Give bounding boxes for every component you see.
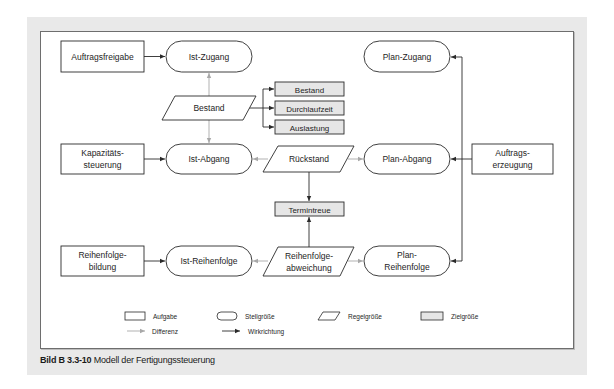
node-auftragserzeugung: Auftrags- erzeugung: [472, 144, 553, 174]
node-rueckstand: Rückstand: [263, 146, 354, 172]
legend-label: Aufgabe: [153, 313, 178, 321]
legend-label: Stellgröße: [245, 313, 275, 321]
figure-caption: Bild B 3.3-10 Modell der Fertigungssteue…: [40, 355, 215, 365]
legend-label: Wirkrichtung: [248, 328, 285, 336]
zielgroesse-symbol-icon: [421, 312, 443, 320]
label-line-1: Auftrags-: [495, 148, 530, 158]
label-line-2: steuerung: [84, 160, 122, 170]
label-line-1: Kapazitäts-: [81, 148, 124, 158]
legend-aufgabe: Aufgabe: [125, 312, 178, 321]
legend-differenz: Differenz: [127, 328, 178, 335]
legend-stellgroesse: Stellgröße: [217, 312, 275, 321]
caption-text: Modell der Fertigungssteuerung: [94, 355, 215, 365]
legend-wirkrichtung: Wirkrichtung: [222, 328, 285, 336]
node-plan-reihenfolge: Plan- Reihenfolge: [364, 246, 450, 276]
label: Auftragsfreigabe: [71, 52, 134, 62]
label: Bestand: [295, 86, 324, 95]
label: Auslastung: [290, 124, 330, 133]
legend-label: Regelgröße: [348, 313, 382, 321]
label-line-1: Reihenfolge-: [285, 251, 333, 261]
label-line-2: erzeugung: [492, 160, 532, 170]
label-line-1: Plan-: [397, 250, 417, 260]
label: Termintreue: [288, 206, 331, 215]
node-ziel-termintreue: Termintreue: [275, 202, 344, 216]
label: Plan-Abgang: [382, 154, 431, 164]
label-line-2: bildung: [89, 262, 117, 272]
legend: Aufgabe Stellgröße Regelgröße Zielgröße …: [125, 312, 479, 336]
node-bestand-regelgroesse: Bestand: [162, 96, 256, 120]
node-plan-abgang: Plan-Abgang: [364, 144, 450, 174]
label: Ist-Reihenfolge: [180, 256, 237, 266]
node-ist-reihenfolge: Ist-Reihenfolge: [166, 246, 252, 276]
label-line-1: Reihenfolge-: [78, 250, 126, 260]
legend-label: Zielgröße: [451, 313, 479, 321]
node-ziel-durchlaufzeit: Durchlaufzeit: [275, 101, 344, 115]
node-ziel-bestand: Bestand: [275, 82, 344, 96]
node-ist-abgang: Ist-Abgang: [166, 144, 252, 174]
fertigungssteuerung-diagram: Auftragsfreigabe Kapazitäts- steuerung R…: [0, 0, 614, 389]
node-ist-zugang: Ist-Zugang: [166, 41, 252, 72]
label: Rückstand: [289, 154, 329, 164]
label: Plan-Zugang: [383, 52, 432, 62]
node-reihenfolgebildung: Reihenfolge- bildung: [61, 246, 144, 276]
node-ziel-auslastung: Auslastung: [275, 120, 344, 134]
regelgroesse-symbol-icon: [318, 312, 340, 320]
node-reihenfolgeabweichung: Reihenfolge- abweichung: [263, 247, 354, 276]
legend-regelgroesse: Regelgröße: [318, 312, 382, 321]
stellgroesse-symbol-icon: [217, 312, 237, 320]
label: Ist-Abgang: [188, 154, 229, 164]
node-auftragsfreigabe: Auftragsfreigabe: [61, 41, 144, 72]
label-line-2: Reihenfolge: [384, 262, 430, 272]
aufgabe-symbol-icon: [125, 312, 145, 320]
legend-label: Differenz: [152, 328, 178, 335]
label: Durchlaufzeit: [286, 105, 333, 114]
caption-label: Bild B 3.3-10: [40, 355, 91, 365]
node-plan-zugang: Plan-Zugang: [364, 41, 450, 72]
node-kapazitaetssteuerung: Kapazitäts- steuerung: [61, 144, 144, 174]
label: Ist-Zugang: [189, 52, 230, 62]
label: Bestand: [193, 103, 224, 113]
label-line-2: abweichung: [286, 263, 332, 273]
legend-zielgroesse: Zielgröße: [421, 312, 479, 321]
